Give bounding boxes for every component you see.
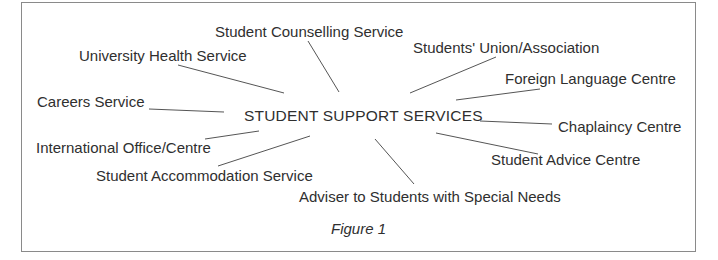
connector-foreign-language [456,89,540,100]
node-chaplaincy: Chaplaincy Centre [558,118,681,136]
node-foreign-language: Foreign Language Centre [505,70,676,88]
figure-caption: Figure 1 [331,220,386,238]
connector-health [178,65,284,93]
node-accommodation: Student Accommodation Service [96,167,313,185]
node-counselling: Student Counselling Service [215,23,403,41]
node-special-needs: Adviser to Students with Special Needs [299,188,561,206]
connector-chaplaincy [480,121,552,124]
node-international: International Office/Centre [36,139,211,157]
node-advice: Student Advice Centre [491,151,640,169]
connector-accommodation [218,136,310,166]
connector-special-needs [375,139,414,184]
node-union: Students' Union/Association [413,39,599,57]
connector-careers [149,109,224,112]
node-careers: Careers Service [37,93,145,111]
node-health: University Health Service [79,47,247,65]
center-label: STUDENT SUPPORT SERVICES [244,107,483,125]
connector-counselling [308,41,339,92]
connector-union [410,57,496,93]
connector-international [205,131,259,139]
